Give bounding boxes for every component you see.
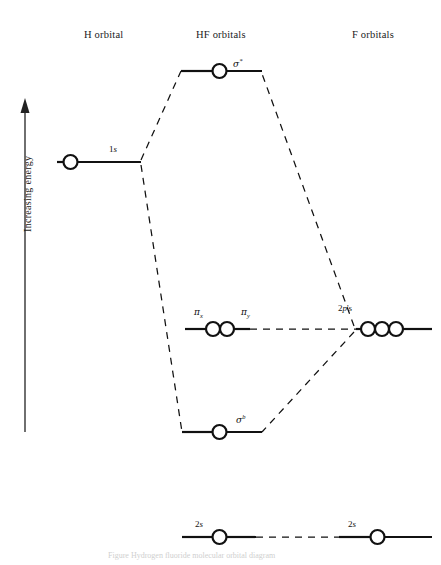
level-label-pi-x: πx (194, 307, 203, 319)
level-label-f-2s: 2s (348, 519, 356, 529)
level-hf-2s (182, 530, 256, 544)
pi-y-subscript: y (247, 312, 250, 319)
electron-circle-sigma-star-1 (213, 64, 227, 78)
electron-circle-pi-x (206, 322, 220, 336)
column-header-h-orbital: H orbital (84, 29, 123, 40)
electron-circle-pi-y (220, 322, 234, 336)
energy-axis-arrowhead (21, 98, 30, 113)
column-header-hf-orbitals: HF orbitals (196, 29, 246, 40)
level-label-h-1s: 1s (109, 144, 117, 154)
correlation-lines (141, 71, 356, 537)
level-pi (185, 322, 250, 336)
pi-x-subscript: x (200, 312, 203, 319)
h-1s-orbital-letter: s (114, 144, 118, 154)
level-label-sigma-star: σ* (233, 57, 242, 69)
electron-circle-f-2s-1 (371, 530, 385, 544)
level-sigma-star (181, 64, 262, 78)
corr-f2p-to-sigmab (262, 332, 354, 432)
level-h-1s (57, 155, 141, 169)
electron-circle-f-2p-1 (361, 322, 375, 336)
sigma-b-superscript: b (242, 413, 245, 420)
level-label-sigma-b: σb (236, 413, 245, 425)
level-f-2s (339, 530, 432, 544)
electron-circle-f-2p-2 (375, 322, 389, 336)
column-header-f-orbitals: F orbitals (352, 29, 394, 40)
f-2s-orbital-letter: s (353, 519, 357, 529)
level-label-hf-2s: 2s (195, 519, 203, 529)
level-label-f-2p: 2p's (338, 303, 352, 313)
mo-diagram: H orbital HF orbitals F orbitals Increas… (0, 0, 441, 565)
mo-diagram-canvas (0, 0, 441, 565)
electron-circle-sigma-b-1 (213, 425, 227, 439)
electron-circle-f-2p-3 (389, 322, 403, 336)
electron-circle-h-1s-1 (64, 155, 78, 169)
corr-h1s-to-sigmab (141, 165, 182, 432)
figure-caption: Figure Hydrogen fluoride molecular orbit… (108, 551, 358, 560)
energy-axis-label: Increasing energy (22, 112, 33, 232)
corr-h1s-to-sigmastar (141, 71, 181, 160)
level-f-2p (356, 322, 432, 336)
level-label-pi-y: πy (241, 307, 250, 319)
hf-2s-orbital-letter: s (200, 519, 204, 529)
f-2p-plural-suffix: 's (347, 303, 352, 313)
level-sigma-b (182, 425, 262, 439)
corr-f2p-to-sigmastar (261, 71, 354, 326)
electron-circle-hf-2s-1 (213, 530, 227, 544)
sigma-star-superscript: * (239, 57, 242, 64)
